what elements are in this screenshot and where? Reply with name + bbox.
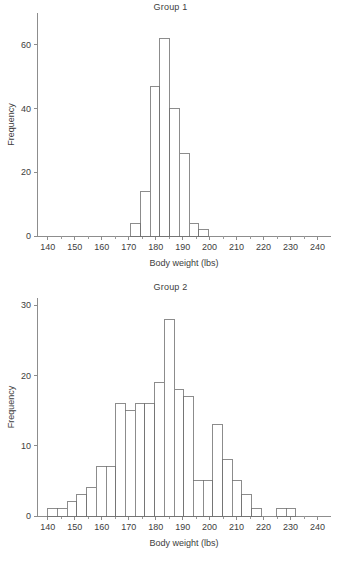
histogram-bar — [252, 509, 262, 516]
x-tick-label: 220 — [256, 522, 271, 532]
x-axis-title: Body weight (lbs) — [149, 258, 218, 268]
x-tick-label: 220 — [256, 242, 271, 252]
histogram-bar — [145, 403, 155, 516]
x-tick-label: 210 — [229, 242, 244, 252]
histogram-bar — [170, 109, 180, 236]
histogram-bar — [116, 403, 126, 516]
histogram-bar — [213, 425, 223, 516]
histogram-bar — [203, 481, 213, 516]
bar-group — [48, 319, 296, 516]
y-tick-label: 20 — [21, 371, 31, 381]
x-tick-label: 190 — [175, 522, 190, 532]
x-tick-label: 180 — [148, 522, 163, 532]
x-tick-label: 140 — [40, 522, 55, 532]
histogram-bar — [189, 223, 199, 236]
histogram-bar — [199, 230, 209, 236]
x-tick-label: 160 — [94, 522, 109, 532]
histogram-bar — [286, 509, 296, 516]
x-tick-label: 230 — [283, 522, 298, 532]
histogram-bar — [135, 403, 145, 516]
y-tick-label: 0 — [26, 511, 31, 521]
x-tick-label: 190 — [175, 242, 190, 252]
histogram-bar — [150, 86, 160, 236]
chart-panel-group-2: Group 2 01020301401501601701801902002102… — [0, 280, 341, 561]
histogram-bar — [242, 495, 252, 516]
x-tick-label: 140 — [40, 242, 55, 252]
histogram-group-1: 0204060140150160170180190200210220230240… — [0, 0, 341, 280]
x-tick-label: 200 — [202, 242, 217, 252]
histogram-bar — [232, 481, 242, 516]
x-tick-label: 200 — [202, 522, 217, 532]
histogram-bar — [141, 191, 151, 236]
y-axis-title: Frequency — [6, 103, 16, 146]
histogram-bar — [193, 481, 203, 516]
y-tick-label: 40 — [21, 104, 31, 114]
histogram-bar — [77, 495, 87, 516]
histogram-bar — [131, 223, 141, 236]
x-tick-label: 170 — [121, 242, 136, 252]
x-axis-title: Body weight (lbs) — [149, 538, 218, 548]
x-tick-label: 230 — [283, 242, 298, 252]
y-tick-label: 30 — [21, 300, 31, 310]
histogram-bar — [57, 509, 67, 516]
x-tick-label: 180 — [148, 242, 163, 252]
figure-page: Group 1 02040601401501601701801902002102… — [0, 0, 341, 561]
histogram-bar — [67, 502, 77, 516]
histogram-bar — [125, 411, 135, 516]
histogram-bar — [179, 153, 189, 236]
x-tick-label: 210 — [229, 522, 244, 532]
x-tick-label: 240 — [310, 242, 325, 252]
histogram-bar — [96, 467, 106, 516]
x-tick-label: 150 — [67, 522, 82, 532]
histogram-bar — [223, 460, 233, 516]
histogram-bar — [155, 382, 165, 516]
histogram-bar — [106, 467, 116, 516]
histogram-bar — [160, 38, 170, 236]
y-tick-label: 10 — [21, 441, 31, 451]
x-tick-label: 170 — [121, 522, 136, 532]
histogram-bar — [184, 396, 194, 516]
chart-panel-group-1: Group 1 02040601401501601701801902002102… — [0, 0, 341, 280]
histogram-bar — [174, 389, 184, 516]
histogram-group-2: 0102030140150160170180190200210220230240… — [0, 280, 341, 561]
histogram-bar — [164, 319, 174, 516]
histogram-bar — [87, 488, 97, 516]
bar-group — [131, 38, 209, 236]
histogram-bar — [277, 509, 287, 516]
x-tick-label: 240 — [310, 522, 325, 532]
y-tick-label: 60 — [21, 40, 31, 50]
histogram-bar — [48, 509, 58, 516]
y-axis-title: Frequency — [6, 385, 16, 428]
x-tick-label: 160 — [94, 242, 109, 252]
y-tick-label: 0 — [26, 231, 31, 241]
x-tick-label: 150 — [67, 242, 82, 252]
y-tick-label: 20 — [21, 167, 31, 177]
